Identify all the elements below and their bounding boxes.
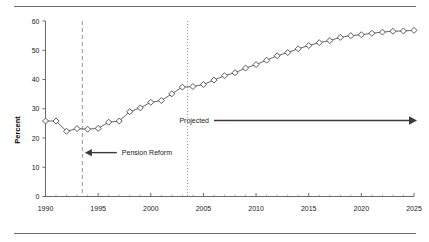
y-tick-label: 10 xyxy=(32,164,40,171)
data-point-marker xyxy=(190,84,196,90)
data-point-marker xyxy=(274,53,280,59)
projected-arrow-head xyxy=(409,116,417,124)
data-point-marker xyxy=(253,62,259,68)
data-point-marker xyxy=(306,43,312,49)
y-tick-label: 40 xyxy=(32,76,40,83)
data-point-marker xyxy=(295,46,301,52)
projected-label: Projected xyxy=(179,117,209,125)
data-point-marker xyxy=(169,91,175,97)
data-point-marker xyxy=(379,29,385,35)
x-tick-label: 2010 xyxy=(248,205,264,212)
data-point-marker xyxy=(348,33,354,39)
x-tick-label: 2020 xyxy=(354,205,370,212)
y-tick-label: 30 xyxy=(32,105,40,112)
x-tick-label: 2005 xyxy=(196,205,212,212)
data-point-marker xyxy=(148,99,154,105)
y-axis-title: Percent xyxy=(13,116,22,144)
data-point-marker xyxy=(358,32,364,38)
annotation-pension-reform: Pension Reform xyxy=(85,149,172,156)
data-point-marker xyxy=(221,73,227,79)
data-point-marker xyxy=(337,34,343,40)
y-axis-ticks: 0102030405060 xyxy=(32,18,46,201)
vertical-reference-lines xyxy=(82,21,187,197)
y-axis-title-group: Percent xyxy=(13,116,22,144)
data-point-marker xyxy=(369,30,375,36)
x-tick-label: 2025 xyxy=(406,205,422,212)
data-point-marker xyxy=(95,125,101,131)
pension-reform-arrow-head xyxy=(85,149,92,156)
data-point-marker xyxy=(264,57,270,63)
data-point-marker xyxy=(316,40,322,46)
chart-canvas: Percent 0102030405060 199019952000200520… xyxy=(0,0,429,242)
x-tick-label: 1995 xyxy=(90,205,106,212)
y-tick-label: 20 xyxy=(32,135,40,142)
data-point-marker xyxy=(85,126,91,132)
data-point-marker xyxy=(327,38,333,44)
data-point-marker xyxy=(106,119,112,125)
data-point-markers xyxy=(43,27,418,134)
data-point-marker xyxy=(285,50,291,56)
x-tick-label: 2015 xyxy=(301,205,317,212)
pension-reform-label: Pension Reform xyxy=(122,149,172,156)
data-point-marker xyxy=(74,126,80,132)
data-point-marker xyxy=(43,118,49,124)
y-tick-label: 50 xyxy=(32,47,40,54)
y-tick-label: 60 xyxy=(32,18,40,25)
x-tick-label: 1990 xyxy=(38,205,54,212)
data-point-marker xyxy=(137,105,143,111)
x-axis-ticks: 19901995200020052010201520202025 xyxy=(38,193,422,212)
x-tick-label: 2000 xyxy=(143,205,159,212)
y-tick-label: 0 xyxy=(36,193,40,200)
data-point-marker xyxy=(411,27,417,33)
line-chart: Percent 0102030405060 199019952000200520… xyxy=(0,0,429,242)
chart-figure: Percent 0102030405060 199019952000200520… xyxy=(0,0,429,242)
data-series-line xyxy=(46,30,415,131)
data-point-marker xyxy=(232,70,238,76)
data-point-marker xyxy=(211,77,217,83)
data-point-marker xyxy=(158,98,164,104)
data-point-marker xyxy=(390,28,396,34)
annotation-projected: Projected xyxy=(179,116,417,125)
data-point-marker xyxy=(243,65,249,71)
data-point-marker xyxy=(179,84,185,90)
data-point-marker xyxy=(400,28,406,34)
data-point-marker xyxy=(200,81,206,87)
